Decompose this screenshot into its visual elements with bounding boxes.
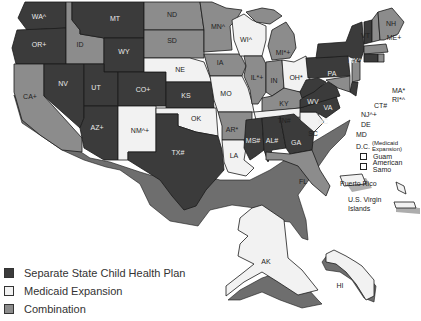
svg-text:NY^: NY^	[348, 57, 362, 64]
svg-text:GA: GA	[291, 139, 301, 146]
svg-text:MT: MT	[110, 15, 121, 22]
svg-text:NV: NV	[58, 80, 68, 87]
label-VT: VT	[361, 32, 370, 39]
svg-text:TN#: TN#	[277, 117, 290, 124]
guam-swatch	[360, 153, 367, 160]
territory-virgin-islands[interactable]	[394, 182, 420, 214]
legend-item-combination: Combination	[4, 300, 185, 318]
label-RI: RI*^	[392, 96, 405, 103]
svg-text:UT: UT	[91, 84, 101, 91]
label-MA: MA*	[392, 87, 405, 94]
svg-text:MS#: MS#	[246, 137, 261, 144]
svg-text:AZ+: AZ+	[90, 124, 103, 131]
svg-text:OH*: OH*	[289, 74, 303, 81]
medicaid-swatch	[4, 286, 14, 296]
state-MT[interactable]	[72, 2, 144, 38]
dc-note: D.C. (Medicaid Expansion)	[356, 141, 421, 151]
state-AZ[interactable]	[80, 106, 118, 160]
dc-label: D.C.	[356, 143, 370, 150]
svg-text:CA+: CA+	[23, 93, 37, 100]
state-AK[interactable]	[226, 205, 322, 308]
label-MD: MD	[356, 131, 367, 138]
legend: Separate State Child Health Plan Medicai…	[4, 264, 185, 318]
svg-text:ID: ID	[77, 41, 84, 48]
state-MA[interactable]	[364, 44, 388, 54]
svg-text:OK: OK	[191, 115, 201, 122]
legend-item-separate: Separate State Child Health Plan	[4, 264, 185, 282]
svg-text:NM^+: NM^+	[131, 127, 149, 134]
svg-text:PA: PA	[328, 70, 337, 77]
svg-text:KS: KS	[181, 92, 191, 99]
svg-text:MO: MO	[220, 90, 232, 97]
puerto-rico-label: Puerto Rico	[340, 180, 377, 187]
state-RI[interactable]	[378, 54, 384, 62]
legend-label-combination: Combination	[24, 303, 86, 315]
svg-text:VA: VA	[324, 104, 333, 111]
state-HI[interactable]	[322, 250, 376, 302]
label-CT: CT#	[374, 102, 387, 109]
svg-text:WI^: WI^	[240, 36, 253, 43]
territory-american-samoa[interactable]: American Samo	[356, 161, 421, 171]
american-samoa-swatch	[360, 163, 367, 170]
svg-text:SD: SD	[167, 37, 177, 44]
legend-label-separate: Separate State Child Health Plan	[24, 267, 185, 279]
svg-text:LA: LA	[230, 152, 239, 159]
svg-text:AL#: AL#	[266, 137, 279, 144]
state-CT[interactable]	[364, 54, 378, 62]
svg-text:WA^: WA^	[32, 13, 47, 20]
territories-list: D.C. (Medicaid Expansion) Guam American …	[356, 141, 421, 171]
state-WY[interactable]	[104, 38, 144, 72]
svg-text:OR+: OR+	[32, 41, 47, 48]
label-NH: NH	[386, 20, 396, 27]
svg-text:ND: ND	[167, 11, 177, 18]
svg-text:MN^: MN^	[211, 23, 226, 30]
state-IA[interactable]	[204, 54, 246, 76]
svg-text:FL: FL	[299, 178, 307, 185]
svg-text:NC: NC	[318, 118, 328, 125]
virgin-islands-label-line2: Islands	[348, 205, 370, 212]
legend-label-medicaid: Medicaid Expansion	[24, 285, 122, 297]
american-samoa-label: American Samo	[373, 159, 421, 173]
label-NJ: NJ^+	[361, 111, 377, 118]
dc-note-text: (Medicaid Expansion)	[372, 140, 421, 152]
svg-text:TX#: TX#	[172, 149, 185, 156]
svg-text:KY: KY	[279, 100, 289, 107]
separate-swatch	[4, 268, 14, 278]
svg-text:MI*+: MI*+	[276, 49, 291, 56]
svg-text:AR*: AR*	[226, 126, 239, 133]
svg-text:AK: AK	[261, 258, 271, 265]
virgin-islands-label-line1: U.S. Virgin	[348, 196, 381, 203]
svg-text:IN: IN	[271, 77, 278, 84]
svg-text:SC: SC	[308, 130, 318, 137]
state-SD[interactable]	[144, 30, 204, 58]
state-DE[interactable]	[350, 82, 358, 96]
svg-text:IA: IA	[217, 59, 224, 66]
svg-text:CO+: CO+	[136, 86, 151, 93]
legend-item-medicaid: Medicaid Expansion	[4, 282, 185, 300]
svg-text:WV: WV	[307, 98, 319, 105]
svg-text:NE: NE	[175, 66, 185, 73]
label-DE: DE	[361, 121, 371, 128]
combination-swatch	[4, 304, 14, 314]
svg-text:HI: HI	[337, 282, 344, 289]
svg-text:ME+: ME+	[387, 34, 402, 41]
svg-text:IL*+: IL*+	[251, 74, 264, 81]
svg-text:WY: WY	[118, 48, 130, 55]
